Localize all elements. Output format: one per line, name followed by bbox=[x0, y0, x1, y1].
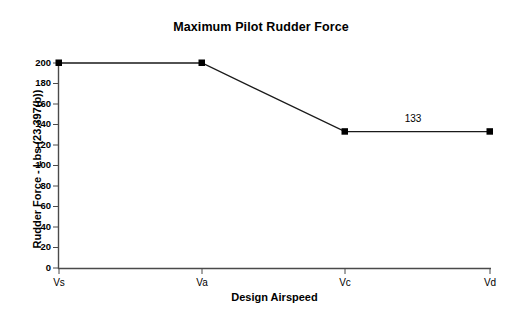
chart-container: Maximum Pilot Rudder Force Rudder Force … bbox=[0, 0, 522, 314]
plot-area bbox=[0, 0, 522, 314]
data-point-va bbox=[199, 60, 206, 67]
data-point-vc bbox=[342, 128, 349, 135]
series-line-rudder-force bbox=[59, 63, 490, 132]
data-point-vs bbox=[56, 60, 63, 67]
y-axis-ticks bbox=[53, 63, 58, 268]
data-point-vd bbox=[487, 128, 494, 135]
